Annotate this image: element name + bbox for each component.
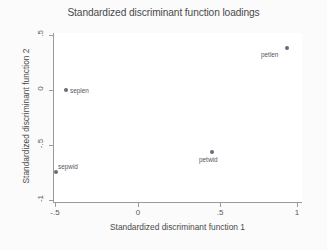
data-point-petwid[interactable] [210, 150, 214, 154]
chart-title: Standardized discriminant function loadi… [0, 7, 327, 18]
y-tick-label-2: -.5 [34, 139, 46, 148]
y-tick-mark-0 [49, 35, 53, 36]
chart-figure: Standardized discriminant function loadi… [0, 0, 327, 250]
y-tick-mark-1 [49, 90, 53, 91]
x-axis-label: Standardized discriminant function 1 [53, 222, 302, 232]
y-axis-label: Standardized discriminant function 2 [21, 26, 31, 206]
y-tick-label-1: 0 [34, 84, 46, 93]
data-point-seplen[interactable] [64, 88, 68, 92]
y-tick-mark-3 [49, 200, 53, 201]
y-tick-label-3: -1 [34, 194, 46, 203]
x-tick-label-2: .5 [217, 208, 224, 217]
x-tick-mark-2 [220, 203, 221, 207]
x-tick-mark-3 [297, 203, 298, 207]
data-point-label-seplen: seplen [70, 87, 89, 94]
data-point-label-petlen: petlen [261, 51, 278, 58]
data-point-label-sepwid: sepwid [58, 163, 78, 170]
plot-area [53, 33, 302, 202]
x-tick-label-1: 0 [136, 208, 140, 217]
x-axis-line [53, 202, 302, 203]
data-point-label-petwid: petwid [199, 156, 217, 163]
y-tick-mark-2 [49, 145, 53, 146]
y-tick-label-0: .5 [34, 29, 46, 38]
x-tick-label-3: 1 [295, 208, 299, 217]
data-point-sepwid[interactable] [54, 170, 58, 174]
x-tick-mark-1 [138, 203, 139, 207]
x-tick-label-0: -.5 [50, 208, 59, 217]
data-point-petlen[interactable] [285, 46, 289, 50]
y-axis-line [53, 33, 54, 203]
x-tick-mark-0 [55, 203, 56, 207]
